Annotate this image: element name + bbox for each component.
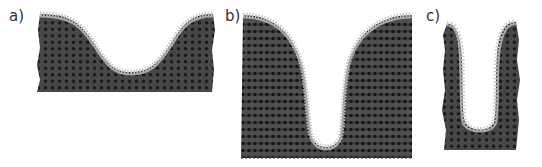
panel-c-tissue	[442, 22, 520, 150]
panel-a-tissue	[37, 14, 215, 92]
panel-b-tissue	[241, 15, 412, 158]
figure-canvas	[0, 0, 542, 167]
